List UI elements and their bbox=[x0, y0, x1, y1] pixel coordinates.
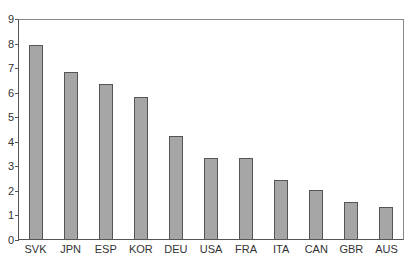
x-tick-label: ITA bbox=[261, 243, 301, 255]
x-tick-label: CAN bbox=[296, 243, 336, 255]
x-tick-label: GBR bbox=[331, 243, 371, 255]
y-tick-label: 5 bbox=[0, 111, 14, 123]
x-tick-label: ESP bbox=[86, 243, 126, 255]
bar-deu bbox=[169, 136, 183, 239]
y-tick-label: 9 bbox=[0, 13, 14, 25]
y-tick-label: 3 bbox=[0, 160, 14, 172]
x-tick-label: USA bbox=[191, 243, 231, 255]
bar-can bbox=[309, 190, 323, 239]
bar-aus bbox=[379, 207, 393, 239]
x-tick-label: JPN bbox=[51, 243, 91, 255]
bar-jpn bbox=[64, 72, 78, 239]
x-tick-label: SVK bbox=[16, 243, 56, 255]
y-tick-label: 1 bbox=[0, 209, 14, 221]
x-tick-label: FRA bbox=[226, 243, 266, 255]
x-tick-label: AUS bbox=[366, 243, 406, 255]
y-tick-mark bbox=[15, 240, 19, 241]
plot-area bbox=[18, 19, 404, 240]
bar-esp bbox=[99, 84, 113, 239]
bar-svk bbox=[29, 45, 43, 239]
bar-usa bbox=[204, 158, 218, 239]
y-tick-label: 4 bbox=[0, 136, 14, 148]
x-tick-label: KOR bbox=[121, 243, 161, 255]
y-tick-label: 2 bbox=[0, 185, 14, 197]
y-tick-label: 7 bbox=[0, 62, 14, 74]
bar-fra bbox=[239, 158, 253, 239]
bar-ita bbox=[274, 180, 288, 239]
bar-kor bbox=[134, 97, 148, 239]
y-tick-label: 8 bbox=[0, 38, 14, 50]
y-tick-label: 6 bbox=[0, 87, 14, 99]
bar-gbr bbox=[344, 202, 358, 239]
y-tick-label: 0 bbox=[0, 234, 14, 246]
x-tick-label: DEU bbox=[156, 243, 196, 255]
